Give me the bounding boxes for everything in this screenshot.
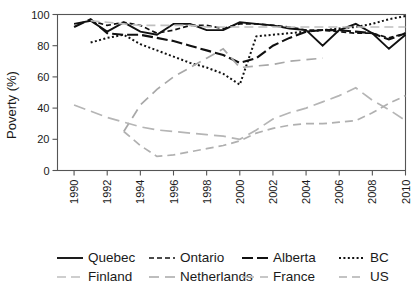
x-tick-label: 2008: [366, 180, 378, 204]
legend-label: Quebec: [88, 250, 136, 265]
y-tick-label: 0: [43, 165, 49, 177]
legend-label: France: [273, 269, 315, 284]
x-tick-label: 2006: [333, 180, 345, 204]
y-tick-label: 100: [31, 9, 49, 21]
x-tick-label: 1998: [201, 180, 213, 204]
x-tick-label: 2004: [300, 180, 312, 204]
legend-label: BC: [370, 250, 389, 265]
y-tick-label: 80: [37, 40, 49, 52]
legend-label: Finland: [88, 269, 132, 284]
legend-label: US: [370, 269, 389, 284]
x-tick-label: 1990: [68, 180, 80, 204]
poverty-line-chart: Poverty (%) 020406080100 199019921994199…: [0, 0, 418, 297]
y-axis-label-text: Poverty (%): [4, 71, 19, 139]
y-tick-label: 20: [37, 133, 49, 145]
x-tick-label: 2002: [267, 180, 279, 204]
y-tick-label: 60: [37, 71, 49, 83]
chart-figure: Poverty (%) 020406080100 199019921994199…: [0, 0, 418, 297]
x-tick-label: 2010: [400, 180, 412, 204]
x-tick-label: 1996: [168, 180, 180, 204]
x-tick-label: 2000: [234, 180, 246, 204]
legend-label: Ontario: [180, 250, 224, 265]
y-tick-label: 40: [37, 102, 49, 114]
x-tick-label: 1994: [134, 180, 146, 204]
y-axis-label: Poverty (%): [4, 71, 19, 139]
x-tick-label: 1992: [101, 180, 113, 204]
legend-label: Alberta: [273, 250, 316, 265]
